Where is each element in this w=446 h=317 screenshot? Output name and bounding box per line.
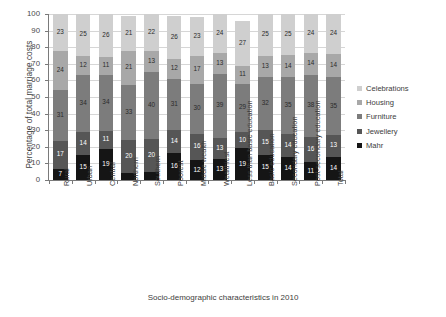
- legend-item-mahr[interactable]: Mahr: [357, 141, 409, 150]
- bar-segment-housing[interactable]: 13: [258, 56, 273, 78]
- bar-segment-jewellery[interactable]: 14: [76, 132, 91, 155]
- bar-stack[interactable]: 717312423: [53, 14, 68, 180]
- bar-value-label: 17: [193, 66, 200, 72]
- bar-value-label: 32: [262, 100, 269, 106]
- x-tick-label: Southern: [153, 156, 162, 186]
- bar-stack[interactable]: 1911341126: [99, 14, 114, 180]
- bar-value-label: 24: [307, 30, 314, 36]
- bar-segment-furniture[interactable]: 40: [144, 72, 159, 138]
- bar-segment-celebrations[interactable]: 25: [281, 14, 296, 55]
- legend-swatch: [357, 129, 362, 134]
- bar-segment-celebrations[interactable]: 27: [235, 21, 250, 66]
- legend-label: Housing: [366, 98, 394, 107]
- bar-segment-furniture[interactable]: 32: [258, 77, 273, 130]
- bar-segment-celebrations[interactable]: 26: [167, 16, 182, 59]
- bar-segment-housing[interactable]: 13: [144, 51, 159, 73]
- bar-segment-celebrations[interactable]: 21: [121, 16, 136, 51]
- bar-segment-jewellery[interactable]: 14: [167, 130, 182, 153]
- bar-segment-furniture[interactable]: 31: [167, 79, 182, 130]
- bar-segment-housing[interactable]: 13: [213, 53, 228, 74]
- x-tick-mark: [299, 180, 300, 184]
- bar-stack[interactable]: 1614311226: [167, 14, 182, 180]
- y-tick-mark: [45, 47, 49, 48]
- legend-swatch: [357, 114, 362, 119]
- bar-segment-housing[interactable]: 14: [326, 54, 341, 77]
- bar-segment-jewellery[interactable]: 17: [53, 141, 68, 169]
- y-tick-mark: [45, 114, 49, 115]
- bar-segment-housing[interactable]: 11: [235, 66, 250, 84]
- bar-segment-housing[interactable]: 12: [167, 59, 182, 79]
- x-tick-label: Less than basic education: [245, 100, 254, 186]
- y-tick-mark: [45, 147, 49, 148]
- bar-stack[interactable]: 420332121: [121, 14, 136, 180]
- y-tick-mark: [45, 64, 49, 65]
- bar-segment-furniture[interactable]: 39: [213, 74, 228, 137]
- y-tick-label: 100: [14, 10, 40, 18]
- legend-swatch: [357, 143, 362, 148]
- bar-segment-celebrations[interactable]: 26: [99, 14, 114, 57]
- bar-segment-jewellery[interactable]: 11: [99, 131, 114, 149]
- bar-value-label: 11: [103, 62, 110, 68]
- bar-segment-furniture[interactable]: 35: [326, 77, 341, 135]
- bar-value-label: 21: [125, 30, 132, 36]
- bar-segment-celebrations[interactable]: 24: [213, 14, 228, 53]
- bar-value-label: 14: [171, 138, 178, 144]
- x-tick-label: Urban: [85, 166, 94, 186]
- bar-segment-housing[interactable]: 24: [53, 51, 68, 90]
- bar-value-label: 40: [148, 102, 155, 108]
- x-tick-mark: [140, 180, 141, 184]
- bar-segment-jewellery[interactable]: 13: [326, 135, 341, 157]
- bar-segment-housing[interactable]: 17: [190, 56, 205, 84]
- bar-segment-housing[interactable]: 12: [76, 56, 91, 76]
- y-tick-label: 70: [14, 60, 40, 68]
- x-tick-mark: [322, 180, 323, 184]
- legend-item-jewellery[interactable]: Jewellery: [357, 127, 409, 136]
- x-tick-mark: [72, 180, 73, 184]
- bar-segment-celebrations[interactable]: 25: [76, 14, 91, 56]
- bar-value-label: 11: [239, 71, 246, 77]
- legend-item-celebrations[interactable]: Celebrations: [357, 84, 409, 93]
- bar-value-label: 11: [103, 136, 110, 142]
- y-tick-label: 30: [14, 126, 40, 134]
- bar-segment-housing[interactable]: 21: [121, 51, 136, 86]
- bar-value-label: 27: [239, 40, 246, 46]
- bar-value-label: 23: [193, 33, 200, 39]
- x-tick-mark: [231, 180, 232, 184]
- bar-segment-celebrations[interactable]: 25: [258, 14, 273, 56]
- legend-label: Mahr: [366, 141, 383, 150]
- bar-segment-furniture[interactable]: 34: [76, 75, 91, 131]
- bar-segment-housing[interactable]: 14: [281, 55, 296, 78]
- y-axis-title: Percentage of total marriage costs: [25, 10, 34, 200]
- bar-segment-housing[interactable]: 14: [304, 53, 319, 76]
- legend-swatch: [357, 100, 362, 105]
- bar-value-label: 26: [171, 34, 178, 40]
- bar-segment-furniture[interactable]: 31: [53, 90, 68, 140]
- bar-stack[interactable]: 1413351424: [326, 14, 341, 180]
- bar-value-label: 13: [148, 58, 155, 64]
- x-tick-label: Central: [108, 162, 117, 186]
- x-tick-mark: [49, 180, 50, 184]
- bar-segment-celebrations[interactable]: 24: [326, 14, 341, 54]
- bar-segment-furniture[interactable]: 30: [190, 84, 205, 134]
- bar-segment-furniture[interactable]: 33: [121, 85, 136, 140]
- bar-segment-furniture[interactable]: 34: [99, 75, 114, 131]
- bar-value-label: 31: [171, 101, 178, 107]
- bar-value-label: 22: [148, 29, 155, 35]
- x-tick-mark: [186, 180, 187, 184]
- y-tick-mark: [45, 163, 49, 164]
- y-tick-label: 80: [14, 43, 40, 51]
- y-tick-mark: [45, 31, 49, 32]
- legend-item-housing[interactable]: Housing: [357, 98, 409, 107]
- bar-segment-celebrations[interactable]: 24: [304, 14, 319, 53]
- bar-value-label: 13: [216, 145, 223, 151]
- bar-segment-celebrations[interactable]: 23: [190, 17, 205, 55]
- x-tick-label: Post-secondary education: [313, 100, 322, 186]
- y-tick-mark: [45, 14, 49, 15]
- y-tick-mark: [45, 80, 49, 81]
- legend-item-furniture[interactable]: Furniture: [357, 112, 409, 121]
- bar-segment-celebrations[interactable]: 23: [53, 14, 68, 51]
- bar-value-label: 13: [216, 60, 223, 66]
- bar-stack[interactable]: 1514341225: [76, 14, 91, 180]
- bar-segment-housing[interactable]: 11: [99, 57, 114, 75]
- bar-segment-celebrations[interactable]: 22: [144, 14, 159, 51]
